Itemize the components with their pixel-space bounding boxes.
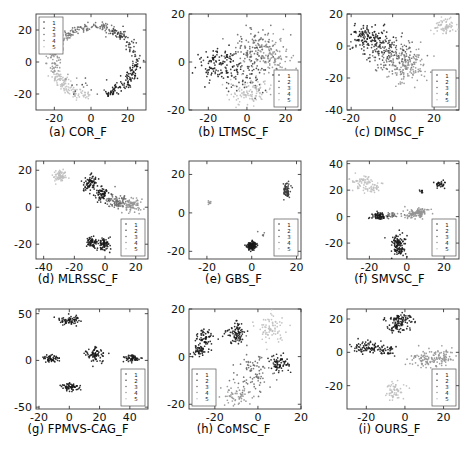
panel-e: -20020-2002012345 (e) GBS_F	[156, 145, 311, 293]
plot-area-b: -20020-2002012345	[156, 0, 311, 145]
legend-entry-label: 4	[134, 240, 138, 246]
scatter-plot-a: -20020-2002012345	[0, 0, 156, 125]
panel-h: -20020-2002012345 (h) CoMSC_F	[156, 293, 311, 458]
legend-entry-label: 5	[445, 97, 448, 103]
legend-entry-label: 1	[205, 372, 208, 378]
legend-entry-label: 4	[445, 390, 449, 396]
y-tick-label: 0	[25, 201, 32, 214]
legend-entry-label: 2	[205, 378, 208, 384]
y-tick-label: -40	[325, 104, 343, 117]
x-tick-label: 20	[427, 112, 441, 125]
panel-caption-c: (c) DIMSC_F	[311, 125, 468, 139]
legend[interactable]: 12345	[121, 369, 145, 406]
legend-entry-label: 1	[287, 73, 290, 79]
legend-entry-label: 4	[205, 390, 209, 396]
legend[interactable]: 12345	[432, 219, 456, 256]
legend-entry-label: 5	[205, 396, 208, 402]
y-tick-label: 20	[18, 164, 32, 177]
x-tick-label: 20	[279, 112, 293, 125]
y-tick-label: 0	[178, 351, 185, 364]
legend-entry-label: 2	[445, 228, 448, 234]
y-tick-label: 20	[171, 8, 185, 21]
y-tick-label: -20	[167, 398, 185, 411]
y-tick-label: -20	[14, 88, 32, 101]
y-tick-label: -50	[14, 401, 32, 414]
panel-caption-i: (i) OURS_F	[311, 422, 468, 436]
panel-caption-b: (b) LTMSC_F	[156, 125, 311, 139]
legend-entry-label: 4	[52, 38, 56, 44]
panel-caption-f: (f) SMVSC_F	[311, 272, 468, 286]
legend-entry-label: 3	[445, 384, 448, 390]
legend-entry-label: 5	[52, 44, 55, 50]
legend[interactable]: 12345	[432, 369, 456, 406]
scatter-plot-e: -20020-2002012345	[156, 145, 311, 273]
legend-entry-label: 3	[134, 234, 137, 240]
y-tick-label: -20	[325, 380, 343, 393]
legend-entry-label: 4	[134, 390, 138, 396]
y-tick-label: -20	[167, 245, 185, 258]
y-tick-label: -20	[325, 237, 343, 250]
panel-grid: -20020-2002012345 (a) COR_F -20020-20020…	[0, 0, 468, 458]
legend-entry-label: 3	[287, 85, 290, 91]
legend-entry-label: 1	[445, 73, 448, 79]
y-tick-label: 20	[329, 184, 343, 197]
y-tick-label: 0	[25, 56, 32, 69]
panel-i: -20020-2002012345 (i) OURS_F	[311, 293, 468, 458]
legend-entry-label: 5	[445, 396, 448, 402]
legend-entry-label: 5	[287, 97, 290, 103]
y-tick-label: 20	[171, 168, 185, 181]
legend[interactable]: 12345	[432, 70, 456, 107]
legend-entry-label: 2	[134, 228, 137, 234]
x-tick-label: 20	[121, 112, 135, 125]
legend-entry-label: 2	[445, 378, 448, 384]
plot-area-a: -20020-2002012345	[0, 0, 156, 145]
y-tick-label: 0	[178, 56, 185, 69]
legend[interactable]: 12345	[274, 219, 298, 256]
legend-entry-label: 2	[52, 26, 55, 32]
legend-entry-label: 2	[287, 228, 290, 234]
legend-entry-label: 2	[287, 79, 290, 85]
y-tick-label: -20	[14, 238, 32, 251]
plot-area-e: -20020-2002012345	[156, 145, 311, 293]
y-tick-label: 0	[25, 354, 32, 367]
legend-entry-label: 2	[134, 378, 137, 384]
y-tick-label: 50	[18, 308, 32, 321]
x-tick-label: 0	[389, 112, 396, 125]
scatter-plot-b: -20020-2002012345	[156, 0, 311, 125]
y-tick-label: 40	[329, 158, 343, 171]
legend-entry-label: 3	[134, 384, 137, 390]
scatter-plot-c: -20020-40-2002012345	[311, 0, 468, 125]
legend[interactable]: 12345	[121, 219, 145, 256]
scatter-plot-d: -40-20020-2002012345	[0, 145, 156, 273]
y-tick-label: 20	[171, 303, 185, 316]
legend-entry-label: 1	[287, 222, 290, 228]
legend-entry-label: 1	[134, 222, 137, 228]
legend[interactable]: 12345	[192, 369, 216, 406]
x-tick-label: -20	[199, 112, 217, 125]
panel-caption-a: (a) COR_F	[0, 125, 156, 139]
y-tick-label: 0	[336, 211, 343, 224]
x-tick-label: -20	[45, 112, 63, 125]
legend-entry-label: 1	[52, 20, 55, 26]
x-tick-label: 0	[243, 112, 250, 125]
y-tick-label: -20	[325, 72, 343, 85]
panel-caption-h: (h) CoMSC_F	[156, 422, 311, 436]
legend[interactable]: 12345	[274, 70, 298, 107]
legend-entry-label: 5	[134, 396, 137, 402]
legend-entry-label: 2	[445, 79, 448, 85]
legend-entry-label: 1	[445, 222, 448, 228]
y-tick-label: 20	[329, 8, 343, 21]
legend[interactable]: 12345	[39, 17, 63, 54]
legend-entry-label: 4	[445, 240, 449, 246]
panel-c: -20020-40-2002012345 (c) DIMSC_F	[311, 0, 468, 145]
plot-area-d: -40-20020-2002012345	[0, 145, 156, 293]
x-tick-label: 0	[88, 112, 95, 125]
legend-entry-label: 5	[287, 246, 290, 252]
panel-caption-g: (g) FPMVS-CAG_F	[0, 422, 156, 436]
legend-entry-label: 4	[287, 240, 291, 246]
scatter-plot-h: -20020-2002012345	[156, 293, 311, 433]
plot-area-c: -20020-40-2002012345	[311, 0, 468, 145]
legend-entry-label: 3	[287, 234, 290, 240]
y-tick-label: 0	[336, 40, 343, 53]
panel-a: -20020-2002012345 (a) COR_F	[0, 0, 156, 145]
